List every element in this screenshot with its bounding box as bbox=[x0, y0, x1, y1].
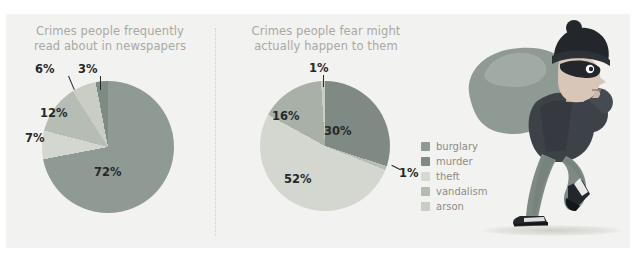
pie-wrap-fear: 30% 1% 52% 16% 1% bbox=[228, 59, 424, 229]
panel-divider bbox=[215, 28, 216, 236]
slice-label-theft-2: 52% bbox=[284, 172, 312, 186]
leader-line-murder-1 bbox=[100, 76, 101, 90]
chart-panel-newspapers: Crimes people frequently read about in n… bbox=[12, 24, 208, 229]
slice-label-murder-2: 1% bbox=[399, 166, 419, 180]
legend-swatch-theft bbox=[421, 172, 430, 181]
legend-label-arson: arson bbox=[436, 202, 464, 212]
slice-label-vandalism-2: 1% bbox=[309, 61, 329, 75]
burglar-shadow bbox=[482, 225, 622, 236]
legend-swatch-burglary bbox=[421, 142, 430, 151]
leader-line-vandalism-2 bbox=[323, 75, 324, 87]
pie-chart-newspapers bbox=[42, 81, 174, 213]
legend-swatch-murder bbox=[421, 157, 430, 166]
legend-label-theft: theft bbox=[436, 172, 460, 182]
legend-swatch-arson bbox=[421, 202, 430, 211]
infographic-canvas: Crimes people frequently read about in n… bbox=[0, 0, 636, 265]
slice-label-burglary-2: 30% bbox=[324, 124, 352, 138]
pie-wrap-newspapers: 72% 7% 12% 6% 3% bbox=[12, 59, 208, 229]
legend-swatch-vandalism bbox=[421, 187, 430, 196]
chart-title-newspapers: Crimes people frequently read about in n… bbox=[12, 24, 208, 53]
chart-title-fear: Crimes people fear might actually happen… bbox=[228, 24, 424, 53]
chart-panel-fear: Crimes people fear might actually happen… bbox=[228, 24, 424, 229]
front-leg bbox=[562, 156, 590, 211]
leader-line-arson-1 bbox=[68, 76, 75, 90]
slice-label-murder-1: 3% bbox=[78, 62, 98, 76]
burglar-illustration bbox=[462, 20, 636, 248]
back-leg bbox=[513, 154, 556, 228]
slice-label-arson-2: 16% bbox=[272, 109, 300, 123]
slice-label-theft-1: 7% bbox=[25, 131, 45, 145]
pie-chart-fear bbox=[260, 81, 390, 211]
slice-label-burglary-1: 72% bbox=[94, 165, 122, 179]
slice-label-arson-1: 6% bbox=[35, 62, 55, 76]
slice-label-vandalism-1: 12% bbox=[40, 106, 68, 120]
burglar-svg bbox=[462, 20, 636, 248]
